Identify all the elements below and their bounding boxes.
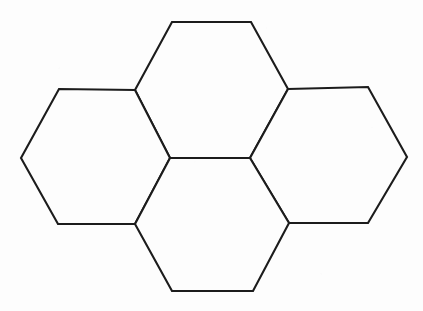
figure-canvas	[0, 0, 423, 311]
hexagon-cluster-diagram	[0, 0, 423, 311]
